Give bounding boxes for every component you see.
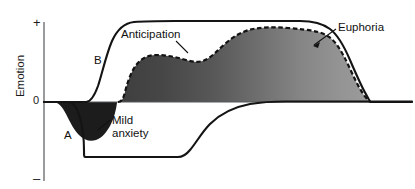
y-axis-tick-negative: – [33, 172, 40, 185]
mild-anxiety-area [53, 102, 117, 141]
mild-anxiety-annotation-line2: anxiety [112, 127, 148, 140]
curve-a-label: A [64, 130, 72, 142]
mild-anxiety-annotation-line1: Mild [112, 114, 148, 127]
y-axis-tick-zero: 0 [33, 95, 39, 106]
anticipation-leader-line [176, 41, 188, 53]
curve-b-label: B [94, 55, 102, 67]
emotion-opponent-process-chart: + 0 – Emotion A B Anticipation Mild anxi… [0, 0, 415, 189]
y-axis-tick-positive: + [33, 16, 41, 29]
euphoria-annotation: Euphoria [338, 21, 384, 34]
mild-anxiety-annotation: Mild anxiety [112, 114, 148, 140]
anticipation-annotation: Anticipation [121, 28, 180, 41]
y-axis-title: Emotion [14, 46, 26, 106]
